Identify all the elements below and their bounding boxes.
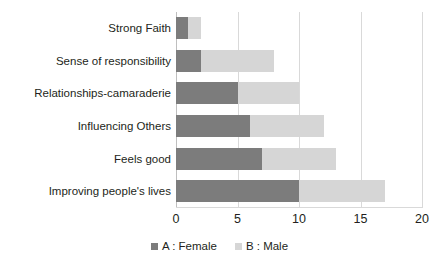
bar-relationships-camaraderie bbox=[176, 82, 299, 104]
legend-label-female: A : Female bbox=[162, 240, 217, 253]
bar-improving-peoples-lives bbox=[176, 180, 385, 202]
x-axis-tick-labels: 0 5 10 15 20 bbox=[0, 211, 439, 231]
bar-segment-male bbox=[262, 148, 336, 170]
category-axis-labels: Strong Faith Sense of responsibility Rel… bbox=[0, 12, 171, 208]
plot-area bbox=[176, 12, 422, 208]
x-tick-label-15: 15 bbox=[354, 211, 368, 227]
bar-segment-male bbox=[250, 115, 324, 137]
bar-rows bbox=[176, 12, 422, 208]
x-tick-label-0: 0 bbox=[173, 211, 180, 227]
stacked-bar-chart: Strong Faith Sense of responsibility Rel… bbox=[0, 0, 439, 265]
bar-segment-male bbox=[238, 82, 300, 104]
category-label-strong-faith: Strong Faith bbox=[1, 22, 171, 34]
bar-influencing-others bbox=[176, 115, 324, 137]
category-label-relationships-camaraderie: Relationships-camaraderie bbox=[1, 87, 171, 99]
bar-strong-faith bbox=[176, 17, 201, 39]
gridline-20 bbox=[422, 12, 423, 208]
bar-segment-female bbox=[176, 82, 238, 104]
bar-segment-female bbox=[176, 17, 188, 39]
bar-sense-of-responsibility bbox=[176, 50, 274, 72]
bar-feels-good bbox=[176, 148, 336, 170]
bar-segment-female bbox=[176, 180, 299, 202]
bar-row-influencing-others bbox=[176, 110, 422, 143]
bar-segment-female bbox=[176, 50, 201, 72]
legend-swatch-icon-female bbox=[151, 243, 158, 250]
bar-row-sense-of-responsibility bbox=[176, 45, 422, 78]
category-label-feels-good: Feels good bbox=[1, 153, 171, 165]
bar-segment-male bbox=[299, 180, 385, 202]
bar-segment-male bbox=[201, 50, 275, 72]
x-tick-label-5: 5 bbox=[234, 211, 241, 227]
category-label-improving-peoples-lives: Improving people's lives bbox=[1, 185, 171, 197]
legend-label-male: B : Male bbox=[246, 240, 288, 253]
x-tick-label-20: 20 bbox=[415, 211, 429, 227]
x-tick-label-10: 10 bbox=[292, 211, 306, 227]
bar-row-improving-peoples-lives bbox=[176, 175, 422, 208]
legend-item-male: B : Male bbox=[235, 240, 288, 253]
bar-row-feels-good bbox=[176, 143, 422, 176]
bar-row-strong-faith bbox=[176, 12, 422, 45]
bar-row-relationships-camaraderie bbox=[176, 77, 422, 110]
legend-swatch-icon-male bbox=[235, 243, 242, 250]
bar-segment-female bbox=[176, 148, 262, 170]
chart-legend: A : Female B : Male bbox=[0, 240, 439, 253]
bar-segment-male bbox=[188, 17, 200, 39]
legend-item-female: A : Female bbox=[151, 240, 217, 253]
category-label-influencing-others: Influencing Others bbox=[1, 120, 171, 132]
x-axis-line bbox=[176, 207, 423, 208]
bar-segment-female bbox=[176, 115, 250, 137]
category-label-sense-of-responsibility: Sense of responsibility bbox=[1, 55, 171, 67]
